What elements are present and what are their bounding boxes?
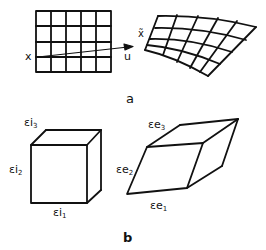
panel-b-label: b (123, 231, 132, 244)
edge-symbol: εi (53, 206, 62, 219)
point-x-label: x (25, 51, 32, 62)
edge-symbol: εi (9, 163, 18, 176)
edge-subscript: 1 (163, 205, 167, 213)
edge-subscript: 1 (62, 212, 66, 220)
parallelepiped-edge-label-1: εe1 (150, 200, 167, 213)
cube-edge-label-1: εi1 (53, 207, 66, 220)
vector-u-label: u (124, 51, 131, 62)
cube-edge-label-3: εi3 (24, 117, 37, 130)
panel-a-label: a (126, 92, 134, 105)
parallelepiped-edge-label-2: εe2 (116, 164, 133, 177)
edge-subscript: 3 (33, 122, 37, 130)
edge-symbol: εe (150, 199, 163, 212)
unit-cube (31, 130, 101, 203)
deformation-diagram: x u x̃ a εi3 εi2 εi1 εe3 εe2 εe1 b (0, 0, 266, 250)
mapped-point-label: x̃ (138, 29, 144, 39)
edge-symbol: εi (24, 116, 33, 129)
edge-subscript: 2 (18, 169, 22, 177)
reference-grid (36, 11, 111, 72)
edge-symbol: εe (116, 163, 129, 176)
cube-edge-label-2: εi2 (9, 164, 22, 177)
edge-symbol: εe (148, 118, 161, 131)
deformed-parallelepiped (127, 119, 238, 194)
deformed-grid (145, 15, 256, 76)
displacement-arrow (38, 44, 133, 57)
diagram-drawing (0, 0, 266, 250)
parallelepiped-edge-label-3: εe3 (148, 119, 165, 132)
edge-subscript: 2 (129, 169, 133, 177)
edge-subscript: 3 (161, 124, 165, 132)
